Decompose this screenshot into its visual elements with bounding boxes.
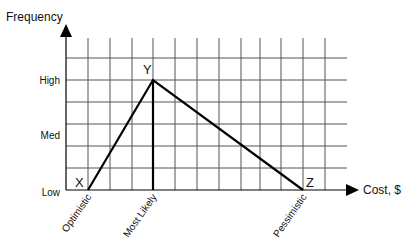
- y-axis-arrow-icon: [60, 24, 72, 37]
- x-label-pessimistic: Pessimistic: [271, 192, 309, 239]
- y-level-med: Med: [41, 130, 60, 141]
- axes: [60, 24, 359, 196]
- x-label-optimistic: Optimistic: [59, 192, 93, 234]
- x-axis-arrow-icon: [346, 184, 359, 196]
- distribution-triangle: [88, 80, 303, 190]
- point-z-label: Z: [306, 175, 314, 190]
- y-level-high: High: [39, 75, 60, 86]
- point-x-label: X: [75, 175, 84, 190]
- y-level-low: Low: [42, 187, 61, 198]
- triangular-distribution-diagram: Frequency Cost, $ High Med Low X Y Z Opt…: [0, 0, 413, 248]
- point-y-label: Y: [143, 62, 152, 77]
- distribution-line: [88, 80, 303, 190]
- grid: [66, 38, 347, 190]
- x-axis-title: Cost, $: [363, 183, 401, 197]
- x-label-most-likely: Most Likely: [121, 192, 159, 239]
- y-axis-title: Frequency: [6, 10, 63, 24]
